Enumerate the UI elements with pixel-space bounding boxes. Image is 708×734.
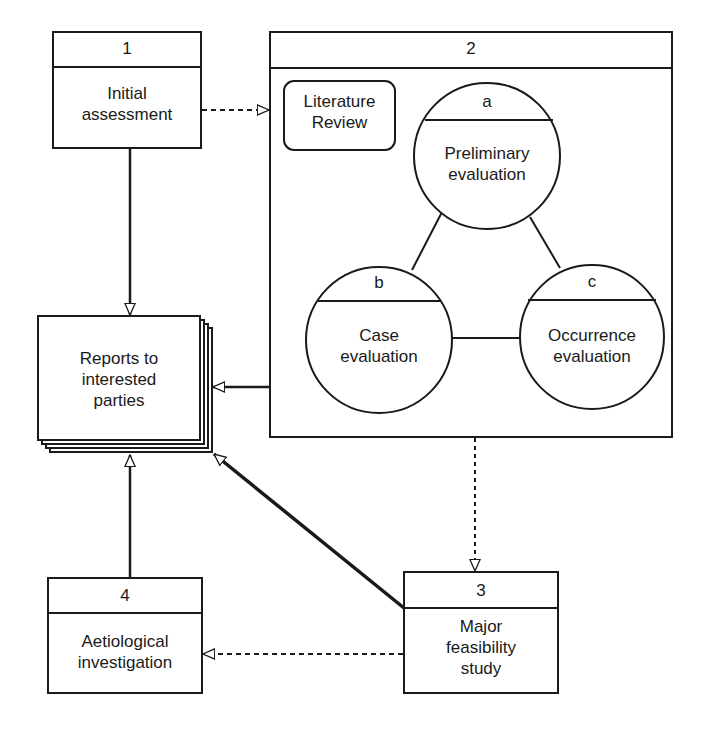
box-1-number: 1 (53, 39, 201, 59)
box-2-number: 2 (270, 39, 672, 59)
circle-b-line2: evaluation (309, 347, 449, 367)
circle-a-line1: Preliminary (417, 144, 557, 164)
box-1-label-line1: Initial (53, 84, 201, 104)
circle-c-line1: Occurrence (522, 326, 662, 346)
literature-review-line2: Review (284, 113, 395, 133)
box-4-number: 4 (48, 586, 202, 606)
box-3-number: 3 (404, 581, 558, 601)
reports-line2: interested (38, 370, 200, 390)
circle-c-letter: c (542, 272, 642, 292)
box-4-line2: investigation (48, 653, 202, 673)
circle-a-letter: a (437, 92, 537, 112)
box-3-line2: feasibility (404, 638, 558, 658)
arrow-3-to-reports (214, 454, 404, 608)
circle-c-line2: evaluation (522, 347, 662, 367)
circle-b-letter: b (329, 273, 429, 293)
reports-line3: parties (38, 391, 200, 411)
circle-b-line1: Case (309, 326, 449, 346)
box-1-label-line2: assessment (53, 105, 201, 125)
literature-review-line1: Literature (284, 92, 395, 112)
box-4-line1: Aetiological (48, 632, 202, 652)
box-3-line1: Major (404, 617, 558, 637)
circle-a-line2: evaluation (417, 165, 557, 185)
reports-line1: Reports to (38, 349, 200, 369)
box-3-line3: study (404, 659, 558, 679)
